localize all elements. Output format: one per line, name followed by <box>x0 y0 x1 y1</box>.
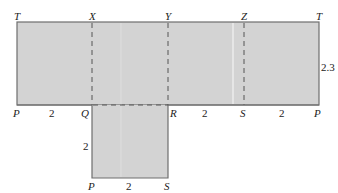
dim-RS: 2 <box>202 107 208 119</box>
label-S-bottom: S <box>164 180 170 192</box>
dim-PS-bottom: 2 <box>126 180 132 192</box>
label-Y: Y <box>165 10 173 22</box>
label-X: X <box>88 10 97 22</box>
label-T-right: T <box>316 10 323 22</box>
base-face <box>92 105 168 178</box>
dim-QP-vertical: 2 <box>83 140 89 152</box>
label-P-bottom: P <box>87 180 95 192</box>
label-P-left: P <box>12 107 20 119</box>
label-T-left: T <box>14 10 21 22</box>
dim-height: 2.3 <box>321 61 335 73</box>
prism-net-diagram: T X Y Z T P Q R S P 2 2 2 2.3 2 2 P S <box>0 0 338 193</box>
dim-PQ: 2 <box>49 107 55 119</box>
label-S-mid: S <box>240 107 246 119</box>
label-Z: Z <box>241 10 248 22</box>
label-Q: Q <box>81 107 89 119</box>
dim-SP: 2 <box>279 107 285 119</box>
label-R: R <box>169 107 177 119</box>
label-P-right: P <box>313 107 321 119</box>
